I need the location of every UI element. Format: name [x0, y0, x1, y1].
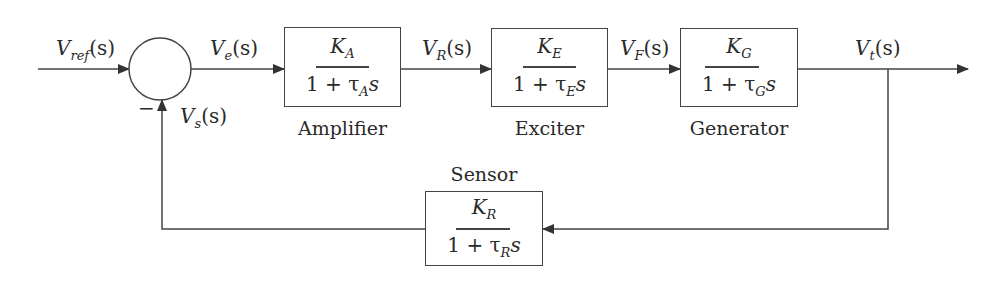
amplifier-numerator: KA: [285, 34, 400, 61]
exciter-denominator: 1 + τEs: [492, 72, 607, 99]
generator-fraction-bar: [705, 66, 759, 68]
sensor-den-post: s: [510, 233, 520, 257]
v-ref-arg: (s): [89, 36, 115, 60]
sensor-den-sub: R: [501, 245, 511, 260]
generator-block: KG 1 + τGs: [680, 28, 798, 107]
v-s-base: V: [180, 104, 194, 128]
generator-caption: Generator: [680, 117, 798, 139]
sensor-block: KR 1 + τRs: [425, 191, 543, 266]
v-r-arg: (s): [446, 36, 472, 60]
minus-sign: −: [138, 96, 155, 120]
v-f-base: V: [620, 36, 634, 60]
label-v-f: VF(s): [620, 36, 669, 63]
label-v-ref: Vref(s): [56, 36, 115, 63]
exciter-caption: Exciter: [491, 117, 608, 139]
label-v-r: VR(s): [422, 36, 472, 63]
generator-den-pre: 1 + τ: [702, 72, 755, 96]
v-e-sub: e: [224, 48, 232, 63]
v-r-base: V: [422, 36, 436, 60]
amplifier-num-base: K: [330, 34, 345, 58]
amplifier-den-pre: 1 + τ: [306, 72, 359, 96]
sensor-denominator: 1 + τRs: [426, 233, 542, 260]
exciter-num-sub: E: [552, 46, 562, 61]
sensor-num-base: K: [472, 195, 487, 219]
generator-den-post: s: [766, 72, 776, 96]
v-ref-sub: ref: [70, 48, 89, 63]
amplifier-caption: Amplifier: [284, 117, 401, 139]
amplifier-den-sub: A: [359, 84, 368, 99]
exciter-block: KE 1 + τEs: [491, 28, 608, 107]
sensor-den-pre: 1 + τ: [447, 233, 500, 257]
label-v-s: Vs(s): [180, 104, 227, 131]
exciter-den-sub: E: [566, 84, 576, 99]
generator-denominator: 1 + τGs: [681, 72, 797, 99]
v-e-base: V: [210, 36, 224, 60]
exciter-fraction-bar: [523, 66, 576, 68]
sensor-fraction-bar: [456, 228, 510, 230]
generator-den-sub: G: [755, 84, 765, 99]
v-t-base: V: [855, 36, 869, 60]
exciter-numerator: KE: [492, 34, 607, 61]
generator-numerator: KG: [681, 34, 797, 61]
amplifier-denominator: 1 + τAs: [285, 72, 400, 99]
label-v-t: Vt(s): [855, 36, 901, 63]
label-v-e: Ve(s): [210, 36, 258, 63]
amplifier-den-post: s: [369, 72, 379, 96]
v-t-arg: (s): [875, 36, 901, 60]
exciter-num-base: K: [537, 34, 552, 58]
v-e-arg: (s): [232, 36, 258, 60]
summing-junction: [129, 38, 191, 100]
generator-num-base: K: [726, 34, 741, 58]
v-ref-base: V: [56, 36, 70, 60]
sensor-num-sub: R: [487, 207, 497, 222]
v-s-arg: (s): [201, 104, 227, 128]
sensor-caption: Sensor: [425, 163, 543, 185]
amplifier-fraction-bar: [316, 66, 369, 68]
v-f-arg: (s): [643, 36, 669, 60]
amplifier-block: KA 1 + τAs: [284, 27, 401, 107]
generator-num-sub: G: [741, 46, 751, 61]
amplifier-num-sub: A: [345, 46, 354, 61]
exciter-den-post: s: [576, 72, 586, 96]
sensor-numerator: KR: [426, 195, 542, 222]
v-r-sub: R: [436, 48, 446, 63]
exciter-den-pre: 1 + τ: [513, 72, 566, 96]
